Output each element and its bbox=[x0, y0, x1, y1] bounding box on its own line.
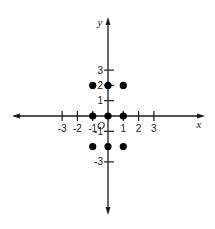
data-point bbox=[89, 143, 96, 150]
data-point bbox=[89, 112, 96, 119]
y-axis-bottom-arrow-icon bbox=[106, 207, 111, 215]
x-tick-label: -2 bbox=[73, 123, 82, 134]
x-axis-label: x bbox=[196, 118, 202, 130]
x-tick-label: 3 bbox=[151, 123, 157, 134]
y-tick-label: 3 bbox=[97, 65, 103, 76]
data-point bbox=[120, 112, 127, 119]
x-tick-label: -3 bbox=[58, 123, 67, 134]
data-point bbox=[104, 112, 111, 119]
x-tick-label: 2 bbox=[136, 123, 142, 134]
data-point bbox=[104, 82, 111, 89]
y-tick-label: 1 bbox=[97, 95, 103, 106]
y-axis-label: y bbox=[97, 16, 103, 28]
y-tick-label: -3 bbox=[94, 156, 103, 167]
labels: -3-2-1123321-1-3xyO bbox=[58, 16, 202, 167]
coordinate-plane: -3-2-1123321-1-3xyO bbox=[0, 0, 215, 229]
y-tick-label: 2 bbox=[97, 80, 103, 91]
x-axis-left-arrow-icon bbox=[12, 114, 20, 119]
data-point bbox=[89, 82, 96, 89]
y-axis-top-arrow-icon bbox=[106, 17, 111, 25]
data-point bbox=[104, 143, 111, 150]
x-tick-label: 1 bbox=[121, 123, 127, 134]
data-point bbox=[120, 143, 127, 150]
origin-label: O bbox=[97, 119, 105, 131]
data-point bbox=[120, 82, 127, 89]
